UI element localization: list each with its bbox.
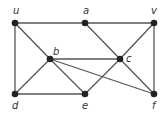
node-f bbox=[151, 91, 158, 98]
node-a bbox=[82, 20, 89, 27]
edge-c-e bbox=[85, 59, 120, 94]
edge-a-c bbox=[85, 23, 120, 59]
node-label-d: d bbox=[12, 100, 19, 111]
node-label-e: e bbox=[82, 100, 88, 111]
node-u bbox=[12, 20, 19, 27]
node-label-b: b bbox=[53, 46, 59, 57]
edge-u-b bbox=[15, 23, 50, 59]
node-label-f: f bbox=[152, 100, 157, 111]
node-v bbox=[151, 20, 158, 27]
node-c bbox=[117, 56, 124, 63]
edges bbox=[15, 23, 154, 94]
node-label-u: u bbox=[13, 5, 19, 16]
graph-diagram: uavbcdef bbox=[0, 0, 166, 113]
node-label-v: v bbox=[151, 5, 158, 16]
node-d bbox=[12, 91, 19, 98]
node-e bbox=[82, 91, 89, 98]
edge-b-d bbox=[15, 59, 50, 94]
node-label-c: c bbox=[126, 53, 132, 64]
node-label-a: a bbox=[83, 5, 89, 16]
